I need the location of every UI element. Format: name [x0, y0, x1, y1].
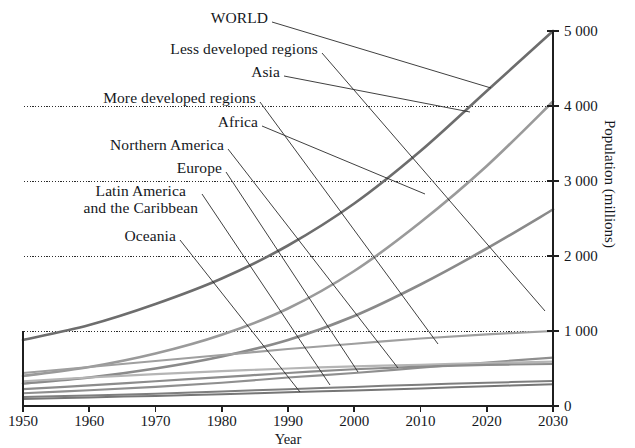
series-label-asia: Asia [251, 64, 280, 81]
leader-line-less [322, 53, 545, 311]
series-line-more-developed-regions [23, 331, 553, 373]
series-label-more-developed-regions: More developed regions [103, 90, 256, 107]
x-tick-label-2010: 2010 [406, 413, 436, 430]
leader-line-africa [262, 126, 425, 194]
x-tick-label-1950: 1950 [8, 413, 38, 430]
leader-line-oceania [180, 240, 300, 392]
y-tick-label-0: 0 [564, 398, 572, 415]
y-tick-label-1000: 1 000 [564, 323, 598, 340]
y-tick-label-2000: 2 000 [564, 248, 598, 265]
leader-line-asia [284, 76, 470, 112]
y-tick-label-3000: 3 000 [564, 173, 598, 190]
gridlines-group [24, 106, 553, 331]
leader-line-europe [226, 172, 358, 372]
series-label-latin-america-caribbean: Latin America and the Caribbean [84, 183, 198, 216]
latin-america-line1: Latin America [96, 182, 186, 199]
y-tick-label-5000: 5 000 [564, 23, 598, 40]
x-axis-title: Year [275, 431, 302, 448]
series-label-world: WORLD [211, 10, 268, 27]
leader-lines-group [180, 22, 545, 392]
y-axis-title: Population (millions) [601, 120, 618, 248]
series-label-africa: Africa [218, 114, 258, 131]
x-tick-label-2030: 2030 [538, 413, 568, 430]
x-tick-label-1970: 1970 [141, 413, 171, 430]
series-line-asia [23, 210, 553, 384]
series-label-northern-america: Northern America [110, 137, 224, 154]
latin-america-line2: and the Caribbean [84, 199, 198, 216]
x-tick-label-2020: 2020 [472, 413, 502, 430]
series-label-less-developed-regions: Less developed regions [170, 41, 318, 58]
series-label-oceania: Oceania [125, 228, 176, 245]
series-line-oceania [23, 384, 553, 399]
x-tick-label-1980: 1980 [207, 413, 237, 430]
x-tick-label-1990: 1990 [273, 413, 303, 430]
x-tick-label-2000: 2000 [339, 413, 369, 430]
series-label-europe: Europe [177, 160, 222, 177]
x-tick-label-1960: 1960 [74, 413, 104, 430]
y-tick-label-4000: 4 000 [564, 98, 598, 115]
